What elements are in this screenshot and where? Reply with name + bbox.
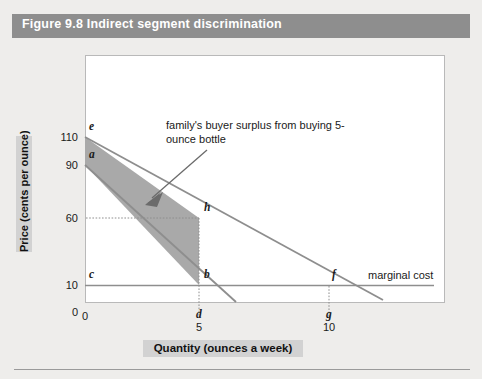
point-label-e: e <box>89 120 94 132</box>
x-tick-0: 0 <box>70 310 100 322</box>
y-tick-10: 10 <box>44 279 78 291</box>
y-axis-title: Price (cents per ounce) <box>16 136 32 252</box>
chart-canvas <box>0 0 482 379</box>
point-label-b: b <box>204 268 210 280</box>
point-label-g: g <box>326 308 332 320</box>
demand-line-low <box>85 165 236 302</box>
point-label-a: a <box>89 148 95 160</box>
marginal-cost-label: marginal cost <box>368 269 433 281</box>
annotation-text: family's buyer surplus from buying 5-oun… <box>166 118 346 146</box>
bottom-divider <box>14 369 470 370</box>
buyer-surplus-region <box>85 137 199 285</box>
x-axis-title: Quantity (ounces a week) <box>143 340 303 357</box>
x-tick-5: 5 <box>184 321 214 333</box>
point-label-f: f <box>332 268 336 280</box>
y-tick-110: 110 <box>44 131 78 143</box>
point-label-h: h <box>204 201 210 213</box>
point-label-d: d <box>196 308 202 320</box>
demand-line-high <box>85 137 383 300</box>
figure-container: Figure 9.8 Indirect segment discriminati… <box>0 0 482 379</box>
x-tick-10: 10 <box>314 321 344 333</box>
point-label-c: c <box>89 268 94 280</box>
y-tick-60: 60 <box>44 212 78 224</box>
y-tick-90: 90 <box>44 159 78 171</box>
